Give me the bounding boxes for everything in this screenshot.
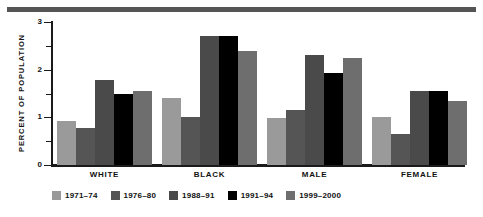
y-tick-major	[44, 70, 52, 71]
bar	[95, 80, 114, 165]
bar	[372, 117, 391, 165]
y-tick-label: 0	[28, 161, 42, 169]
bar	[181, 117, 200, 165]
category-label: MALE	[267, 170, 362, 179]
chart-legend: 1971–741976–801988–911991–941999–2000	[52, 191, 341, 200]
bar-group	[267, 22, 362, 165]
legend-item[interactable]: 1991–94	[228, 191, 274, 200]
bar	[57, 121, 76, 165]
bar	[219, 36, 238, 165]
bar	[133, 91, 152, 165]
legend-item[interactable]: 1988–91	[169, 191, 215, 200]
bar	[200, 36, 219, 165]
chart-figure: PERCENT OF POPULATION 0123 WHITEBLACKMAL…	[0, 0, 483, 217]
bar	[114, 94, 133, 165]
legend-swatch-icon	[111, 191, 120, 200]
legend-label: 1988–91	[182, 191, 215, 200]
bar-group	[57, 22, 152, 165]
bar	[448, 101, 467, 165]
bar-group	[372, 22, 467, 165]
bar	[410, 91, 429, 165]
category-label: BLACK	[162, 170, 257, 179]
y-tick-major	[44, 117, 52, 118]
y-tick-label: 1	[28, 113, 42, 121]
top-decorative-rule	[7, 7, 476, 12]
y-tick-label: 3	[28, 18, 42, 26]
legend-item[interactable]: 1999–2000	[286, 191, 341, 200]
legend-swatch-icon	[169, 191, 178, 200]
legend-swatch-icon	[286, 191, 295, 200]
bar	[324, 73, 343, 165]
legend-label: 1999–2000	[299, 191, 341, 200]
bar	[267, 118, 286, 165]
legend-swatch-icon	[52, 191, 61, 200]
bar	[76, 128, 95, 165]
bar	[286, 110, 305, 165]
legend-swatch-icon	[228, 191, 237, 200]
y-tick-major	[44, 22, 52, 23]
bar	[429, 91, 448, 165]
legend-item[interactable]: 1971–74	[52, 191, 98, 200]
y-tick-minor	[46, 46, 52, 47]
bar	[391, 134, 410, 165]
category-label: WHITE	[57, 170, 152, 179]
y-tick-minor	[46, 141, 52, 142]
y-tick-label: 2	[28, 66, 42, 74]
y-tick-major	[44, 165, 52, 166]
bar-group	[162, 22, 257, 165]
bar	[343, 58, 362, 165]
legend-label: 1991–94	[241, 191, 274, 200]
legend-item[interactable]: 1976–80	[111, 191, 157, 200]
y-tick-minor	[46, 94, 52, 95]
bar	[162, 98, 181, 165]
bar	[305, 55, 324, 165]
legend-label: 1971–74	[65, 191, 98, 200]
bar	[238, 51, 257, 165]
category-label: FEMALE	[372, 170, 467, 179]
legend-label: 1976–80	[124, 191, 157, 200]
y-axis-title: PERCENT OF POPULATION	[14, 22, 28, 165]
